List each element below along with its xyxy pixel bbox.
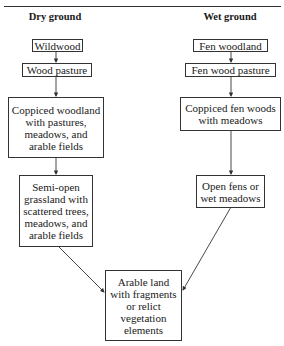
box-label: Fen wood pasture (191, 64, 269, 76)
box-label: arable fields (29, 140, 83, 152)
box-label: Coppiced fen woods (185, 102, 275, 114)
arrow-open-fens-to-arable (183, 207, 231, 290)
box-label: scattered trees, (23, 205, 88, 217)
box-wood-pasture: Wood pasture (22, 63, 92, 77)
box-label: arable fields (29, 229, 83, 241)
box-semi-open-grassland: Semi-open grassland with scattered trees… (19, 175, 93, 247)
box-label: Semi-open (32, 181, 80, 193)
box-label: or relict (126, 300, 161, 312)
box-label: elements (124, 324, 163, 336)
box-wildwood: Wildwood (32, 39, 83, 52)
box-label: Fen woodland (199, 40, 262, 52)
box-label: with fragments (110, 288, 176, 300)
box-coppiced-woodland: Coppiced woodland with pastures, meadows… (8, 97, 104, 158)
box-label: Wildwood (35, 40, 81, 52)
box-label: Open fens or (202, 180, 259, 192)
box-label: Coppiced woodland (12, 104, 100, 116)
box-fen-woodland: Fen woodland (193, 39, 268, 52)
box-label: vegetation (121, 312, 167, 324)
box-arable-land: Arable land with fragments or relict veg… (105, 270, 182, 341)
box-fen-wood-pasture: Fen wood pasture (185, 63, 276, 77)
box-open-fens: Open fens or wet meadows (196, 175, 265, 208)
box-label: meadows, and (25, 128, 88, 140)
box-label: Wood pasture (27, 64, 88, 76)
box-coppiced-fen-woods: Coppiced fen woods with meadows (180, 97, 281, 131)
box-label: with meadows (199, 114, 263, 126)
box-label: grassland with (24, 193, 88, 205)
box-label: with pastures, (25, 116, 86, 128)
box-label: wet meadows (200, 192, 260, 204)
box-label: Arable land (118, 276, 170, 288)
arrow-semi-open-to-arable (58, 246, 104, 292)
box-label: meadows, and (25, 217, 88, 229)
